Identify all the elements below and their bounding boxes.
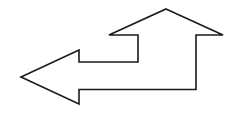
bent-arrow-diagram [0,0,236,128]
bent-arrow-shape [21,9,223,104]
diagram-canvas [0,0,236,128]
